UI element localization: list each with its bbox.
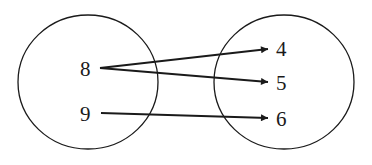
domain-element-9: 9 — [80, 102, 91, 126]
range-element-6: 6 — [276, 107, 287, 131]
arrow-8-to-5 — [100, 68, 268, 82]
mapping-diagram: 8 9 4 5 6 — [0, 0, 372, 165]
domain-circle — [18, 15, 158, 149]
arrow-9-to-6 — [101, 113, 268, 118]
arrow-8-to-4 — [100, 49, 268, 68]
range-element-5: 5 — [276, 71, 287, 95]
domain-element-8: 8 — [80, 57, 91, 81]
range-element-4: 4 — [276, 37, 287, 61]
